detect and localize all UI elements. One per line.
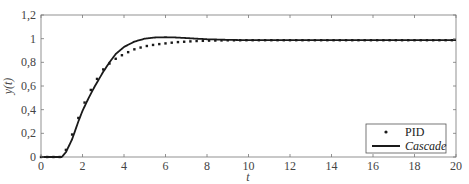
- y-axis-label: y(t): [1, 78, 15, 96]
- pid-marker: [133, 48, 135, 50]
- legend-cascade-label: Cascade: [405, 139, 447, 153]
- pid-marker: [171, 41, 173, 43]
- pid-marker: [177, 41, 179, 43]
- pid-marker: [158, 43, 160, 45]
- y-tick-label: 0,4: [21, 103, 36, 117]
- x-tick-label: 0: [38, 159, 44, 173]
- pid-marker: [189, 40, 191, 42]
- x-tick-label: 4: [121, 159, 127, 173]
- pid-marker: [183, 41, 185, 43]
- pid-marker: [146, 45, 148, 47]
- y-tick-label: 1,2: [21, 8, 36, 22]
- pid-marker: [202, 40, 204, 42]
- y-tick-label: 0,8: [21, 55, 36, 69]
- pid-marker: [127, 51, 129, 53]
- legend-pid-marker-icon: [384, 130, 387, 133]
- legend: PID Cascade: [366, 124, 447, 153]
- x-tick-label: 14: [326, 159, 338, 173]
- y-tick-label: 1: [30, 32, 36, 46]
- x-tick-label: 16: [367, 159, 379, 173]
- x-tick-label: 12: [284, 159, 296, 173]
- pid-marker: [152, 44, 154, 46]
- y-tick-label: 0,6: [21, 79, 36, 93]
- pid-marker: [164, 42, 166, 44]
- x-tick-label: 2: [80, 159, 86, 173]
- pid-marker: [121, 54, 123, 56]
- legend-pid-label: PID: [405, 125, 425, 139]
- pid-marker: [195, 40, 197, 42]
- y-tick-label: 0,2: [21, 126, 36, 140]
- pid-marker: [139, 46, 141, 48]
- x-tick-label: 18: [409, 159, 421, 173]
- x-tick-label: 6: [163, 159, 169, 173]
- step-response-chart: 0246810121416182000,20,40,60,811,2 t y(t…: [0, 0, 469, 184]
- x-tick-label: 8: [204, 159, 210, 173]
- pid-marker: [115, 58, 117, 60]
- x-tick-label: 20: [450, 159, 462, 173]
- y-tick-label: 0: [30, 150, 36, 164]
